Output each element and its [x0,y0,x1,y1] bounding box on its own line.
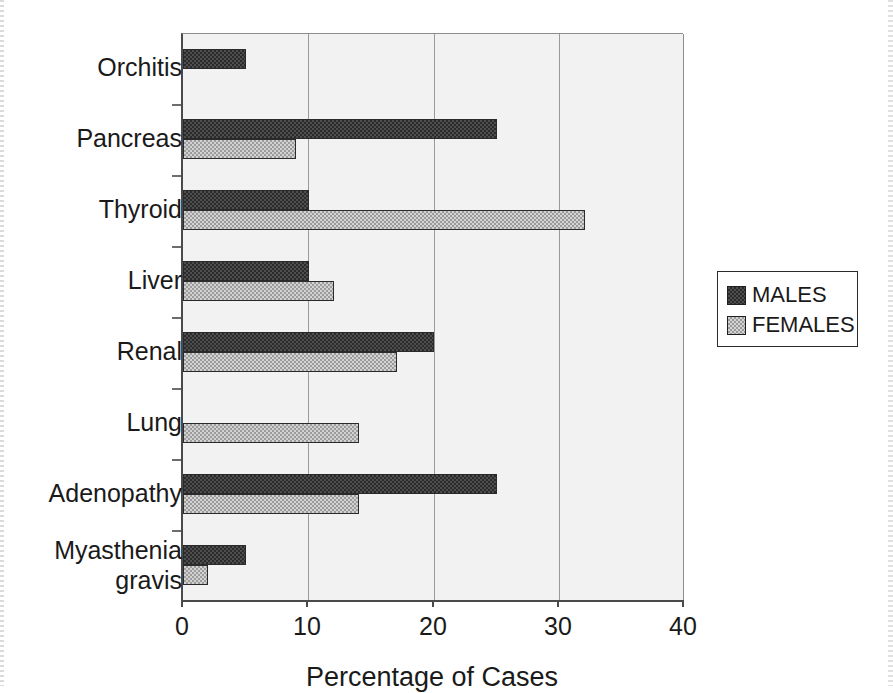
bar-renal-females [183,352,397,372]
legend-label-males: MALES [752,283,827,307]
category-label-pancreas: Pancreas [0,124,182,153]
bar-orchitis-males [183,49,246,69]
bar-lung-females [183,423,359,443]
x-tick-0 [181,600,183,607]
gridline-30 [559,34,560,600]
x-tick-label-10: 10 [277,611,337,641]
x-tick-20 [432,600,434,607]
y-tick-5 [172,388,181,390]
bar-pancreas-males [183,119,497,139]
x-tick-label-0: 0 [152,611,212,641]
bar-thyroid-males [183,190,309,210]
x-tick-label-40: 40 [653,611,713,641]
x-tick-label-30: 30 [528,611,588,641]
legend-item-females: FEMALES [727,310,857,340]
x-tick-30 [557,600,559,607]
y-tick-2 [172,175,181,177]
x-tick-40 [682,600,684,607]
legend-label-females: FEMALES [752,313,855,337]
bar-myasthenia-gravis-males [183,545,246,565]
bar-renal-males [183,332,434,352]
category-label-orchitis: Orchitis [0,53,182,82]
y-tick-1 [172,104,181,106]
bar-myasthenia-gravis-females [183,565,208,585]
legend: MALES FEMALES [717,271,858,347]
dark-checker-swatch-icon [727,286,746,305]
category-label-thyroid: Thyroid [0,195,182,224]
y-tick-4 [172,317,181,319]
category-label-renal: Renal [0,337,182,366]
y-tick-7 [172,530,181,532]
category-label-myasthenia-gravis-line1: Myasthenia [0,535,182,565]
category-label-myasthenia-gravis-line2: gravis [0,565,182,595]
bar-adenopathy-males [183,474,497,494]
category-label-myasthenia-gravis: Myasthenia gravis [0,535,182,595]
bar-adenopathy-females [183,494,359,514]
x-tick-label-20: 20 [403,611,463,641]
gridline-40 [683,34,684,600]
scan-edge-right [888,0,893,686]
x-tick-10 [306,600,308,607]
bar-liver-females [183,281,334,301]
category-label-liver: Liver [0,266,182,295]
light-checker-swatch-icon [727,316,746,335]
y-tick-6 [172,459,181,461]
y-tick-3 [172,246,181,248]
plot-area [181,33,683,600]
bar-thyroid-females [183,210,585,230]
bar-pancreas-females [183,139,296,159]
x-axis-title: Percentage of Cases [181,661,683,693]
category-label-lung: Lung [0,408,182,437]
legend-item-males: MALES [727,280,857,310]
category-label-adenopathy: Adenopathy [0,479,182,508]
bar-liver-males [183,261,309,281]
